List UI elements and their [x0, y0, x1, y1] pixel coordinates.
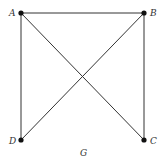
- node-a: [18, 10, 23, 15]
- node-d: [18, 137, 23, 142]
- node-c: [141, 137, 146, 142]
- graph-diagram: A B C D G: [0, 0, 166, 159]
- node-label-d: D: [8, 136, 16, 146]
- node-label-b: B: [149, 8, 157, 18]
- graph-name-label: G: [80, 148, 87, 158]
- node-b: [141, 10, 146, 15]
- edges: [21, 13, 144, 140]
- node-label-a: A: [8, 8, 16, 18]
- node-label-c: C: [150, 136, 157, 146]
